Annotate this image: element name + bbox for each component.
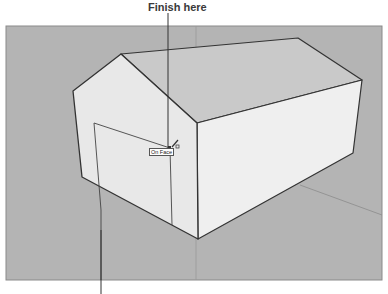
drawing-canvas[interactable] <box>0 0 388 294</box>
callout-text: Finish here <box>148 1 207 13</box>
inference-tooltip: On Face <box>149 148 174 156</box>
sketchup-viewport[interactable]: On Face <box>0 0 388 294</box>
